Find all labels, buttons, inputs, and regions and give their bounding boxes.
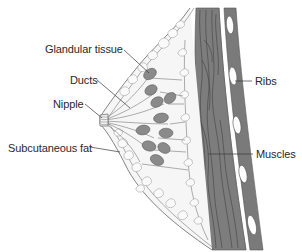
breast-anatomy-diagram [0,0,302,252]
nipple [100,114,108,126]
label-glandular-tissue: Glandular tissue [45,43,123,55]
label-muscles: Muscles [256,148,296,160]
label-ribs: Ribs [255,75,277,87]
label-ducts: Ducts [70,74,98,86]
label-subcutaneous-fat: Subcutaneous fat [8,142,92,154]
leader-nipple [85,104,102,118]
leader-subcutaneous-fat [90,147,120,152]
label-nipple: Nipple [53,98,84,110]
